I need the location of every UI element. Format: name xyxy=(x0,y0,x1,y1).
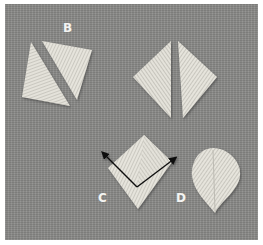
shape-diamond-pair xyxy=(133,41,217,118)
diamond-left-half xyxy=(133,41,171,118)
shape-b-square xyxy=(22,41,92,106)
diamond-right-half xyxy=(178,41,217,118)
shape-d-leaf xyxy=(192,148,240,213)
label-d: D xyxy=(176,192,186,204)
label-c: C xyxy=(98,192,107,204)
shape-d-leaf-body xyxy=(192,148,240,213)
shape-c-fishbone xyxy=(104,135,174,209)
embroidery-scene xyxy=(0,0,263,245)
label-b: B xyxy=(63,22,72,34)
